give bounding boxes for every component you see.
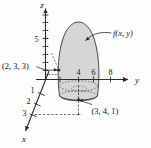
x-tick-label-2: 2 [27,97,31,106]
y-tick-label-8: 8 [109,68,113,77]
x-tick-label-1: 1 [31,86,35,95]
surface-body [58,22,99,100]
x-tick-label-3: 3 [23,109,27,118]
y-tick-label-4: 4 [77,68,81,77]
y-axis-label: y [134,75,139,85]
z-axis-label: z [39,0,44,10]
y-tick-label-6: 6 [92,68,96,77]
coordinate-diagram-svg: z y x 5 4 6 8 1 2 3 (2, 3, 3) (3, 4, 1) … [0,0,151,148]
point-label-341: (3, 4, 1) [92,106,119,116]
leader-arrowhead-233 [54,68,58,72]
point-label-233: (2, 3, 3) [2,61,29,71]
dashed-to-point-233 [52,53,59,70]
surface-function-label: f(x, y) [113,28,133,38]
x-axis-label: x [21,134,26,144]
z-tick-label-5: 5 [35,35,39,44]
figure-container: z y x 5 4 6 8 1 2 3 (2, 3, 3) (3, 4, 1) … [0,0,151,148]
